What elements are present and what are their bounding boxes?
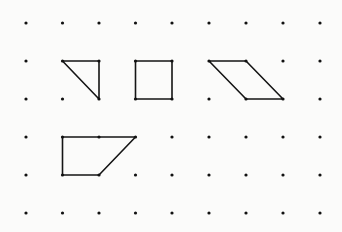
grid-dot — [170, 59, 173, 62]
grid-dot — [207, 59, 210, 62]
grid-dot — [24, 59, 27, 62]
grid-dot — [97, 135, 100, 138]
grid-dot — [281, 173, 284, 176]
grid-dot — [244, 21, 247, 24]
grid-dot — [61, 59, 64, 62]
grid-dot — [207, 97, 210, 100]
grid-dot — [170, 173, 173, 176]
grid-dot — [134, 97, 137, 100]
grid-dot — [244, 59, 247, 62]
grid-dot — [318, 59, 321, 62]
grid-dot — [318, 21, 321, 24]
grid-dot — [61, 97, 64, 100]
grid-dot — [207, 211, 210, 214]
square-shape — [136, 61, 173, 99]
grid-dot — [281, 97, 284, 100]
diagram-svg — [0, 0, 342, 232]
dots-layer — [24, 21, 321, 214]
grid-dot — [24, 21, 27, 24]
grid-dot — [244, 173, 247, 176]
grid-dot — [318, 97, 321, 100]
grid-dot — [134, 173, 137, 176]
grid-dot — [207, 173, 210, 176]
grid-dot — [170, 211, 173, 214]
trapezoid-shape — [63, 137, 136, 175]
grid-dot — [207, 135, 210, 138]
grid-dot — [97, 97, 100, 100]
right-triangle-shape — [63, 61, 100, 99]
grid-dot — [244, 211, 247, 214]
grid-dot — [318, 211, 321, 214]
grid-dot — [134, 21, 137, 24]
grid-dot — [134, 211, 137, 214]
grid-dot — [170, 135, 173, 138]
dot-grid-diagram — [0, 0, 342, 232]
grid-dot — [281, 21, 284, 24]
grid-dot — [24, 97, 27, 100]
grid-dot — [24, 211, 27, 214]
shapes-layer — [63, 61, 284, 175]
grid-dot — [244, 97, 247, 100]
grid-dot — [281, 135, 284, 138]
grid-dot — [97, 21, 100, 24]
grid-dot — [281, 211, 284, 214]
parallelogram-shape — [209, 61, 283, 99]
grid-dot — [61, 135, 64, 138]
grid-dot — [24, 135, 27, 138]
grid-dot — [97, 211, 100, 214]
grid-dot — [244, 135, 247, 138]
grid-dot — [318, 173, 321, 176]
grid-dot — [134, 59, 137, 62]
grid-dot — [97, 173, 100, 176]
grid-dot — [24, 173, 27, 176]
grid-dot — [97, 59, 100, 62]
grid-dot — [61, 21, 64, 24]
grid-dot — [318, 135, 321, 138]
grid-dot — [61, 211, 64, 214]
grid-dot — [170, 21, 173, 24]
grid-dot — [207, 21, 210, 24]
grid-dot — [134, 135, 137, 138]
grid-dot — [61, 173, 64, 176]
grid-dot — [281, 59, 284, 62]
grid-dot — [170, 97, 173, 100]
